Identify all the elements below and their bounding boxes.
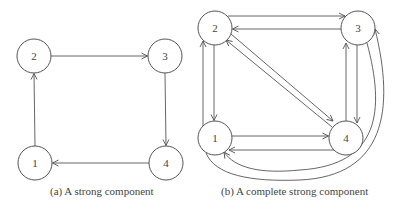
node-label: 1 [32, 157, 38, 169]
node-label: 4 [343, 132, 349, 144]
node-b-2[interactable]: 2 [198, 11, 232, 45]
figure-b-caption: (b) A complete strong component [221, 185, 368, 197]
figure-b-complete-strong-component: 2 3 1 4 [198, 11, 384, 180]
figure-a-caption: (a) A strong component [50, 185, 154, 197]
node-a-3[interactable]: 3 [148, 39, 182, 73]
edge-2-to-4 [231, 34, 333, 121]
node-b-3[interactable]: 3 [341, 11, 375, 45]
node-label: 4 [163, 157, 169, 169]
diagram-canvas: 2 3 1 4 [0, 0, 400, 208]
node-b-4[interactable]: 4 [329, 121, 363, 155]
node-label: 1 [212, 132, 218, 144]
node-label: 2 [212, 22, 218, 34]
node-a-2[interactable]: 2 [17, 39, 51, 73]
node-b-1[interactable]: 1 [198, 121, 232, 155]
node-label: 2 [31, 50, 37, 62]
edge-4-to-2 [226, 40, 332, 127]
node-a-4[interactable]: 4 [149, 146, 183, 180]
node-label: 3 [355, 22, 361, 34]
edge-1-to-2 [34, 74, 35, 147]
figure-a-strong-component: 2 3 1 4 [17, 39, 183, 180]
edge-3-to-4 [165, 73, 166, 146]
node-label: 3 [162, 50, 168, 62]
node-a-1[interactable]: 1 [18, 146, 52, 180]
